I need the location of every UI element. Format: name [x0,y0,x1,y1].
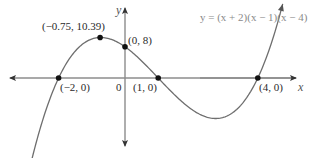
root3-label: (4, 0) [259,81,283,94]
point-marker [56,75,62,81]
point-marker [155,75,161,81]
y-intercept-label: (0, 8) [128,34,152,47]
point-marker [255,75,261,81]
root1-label: (−2, 0) [60,81,90,94]
max-point-label: (−0.75, 10.39) [42,20,105,33]
point-marker [122,44,128,50]
equation-label: y = (x + 2)(x − 1)(x − 4) [200,11,308,24]
root2-label: (1, 0) [133,81,157,94]
x-axis-label: x [297,80,304,94]
point-marker [97,35,103,41]
origin-label: 0 [116,81,122,93]
y-axis-label: y [115,3,122,17]
cubic-function-graph: y = (x + 2)(x − 1)(x − 4) y x 0 (−0.75, … [0,0,325,158]
